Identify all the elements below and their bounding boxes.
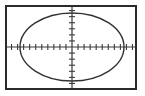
graphing-calculator-screen	[0, 0, 145, 96]
calculator-screenshot	[0, 0, 145, 96]
graph-plot	[0, 0, 145, 96]
